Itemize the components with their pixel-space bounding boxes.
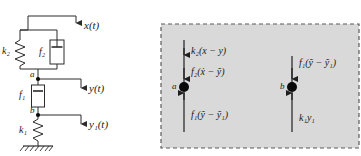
label-node-b-fbd: b xyxy=(280,82,285,91)
fbd-node-b-dot xyxy=(287,82,297,92)
figure-drawing xyxy=(0,0,361,156)
fbd-panel-group xyxy=(161,24,359,148)
spring-k2 xyxy=(15,38,25,69)
label-f1: f₁ xyxy=(19,90,25,100)
label-force-k2: k₂(x − y) xyxy=(191,46,226,56)
label-node-b-schematic: b xyxy=(30,106,35,115)
figure-root: x(t) y(t) y₁(t) k₂ f₂ f₁ k₁ a b a k₂(x −… xyxy=(0,0,361,156)
label-node-a-schematic: a xyxy=(30,70,35,79)
label-f2: f₂ xyxy=(39,47,45,57)
junction-dot-a xyxy=(36,77,40,81)
junction-dot-b xyxy=(36,113,40,117)
x-displacement-arrow xyxy=(28,16,76,23)
damper-f2 xyxy=(50,40,64,69)
label-y-of-t: y(t) xyxy=(89,83,104,94)
y1-displacement-arrow xyxy=(38,115,81,124)
fbd-node-a-dot xyxy=(179,82,189,92)
label-k2: k₂ xyxy=(2,46,10,56)
fbd-panel-border xyxy=(161,24,359,148)
label-k1: k₁ xyxy=(19,125,27,135)
spring-k1 xyxy=(33,115,43,146)
label-force-k1-b: k₁y₁ xyxy=(299,113,315,123)
top-link-left xyxy=(20,16,28,30)
label-x-of-t: x(t) xyxy=(84,20,99,31)
label-y1-of-t: y₁(t) xyxy=(89,119,108,130)
label-force-f1-b: f₁(ỹ − ỹ₁) xyxy=(299,58,336,68)
label-force-f1-a: f₁(ỹ − ỹ₁) xyxy=(191,110,228,120)
label-force-f2: f₂(ẋ − ỹ) xyxy=(191,67,225,77)
label-node-a-fbd: a xyxy=(172,82,177,91)
ground-symbol xyxy=(20,146,53,151)
